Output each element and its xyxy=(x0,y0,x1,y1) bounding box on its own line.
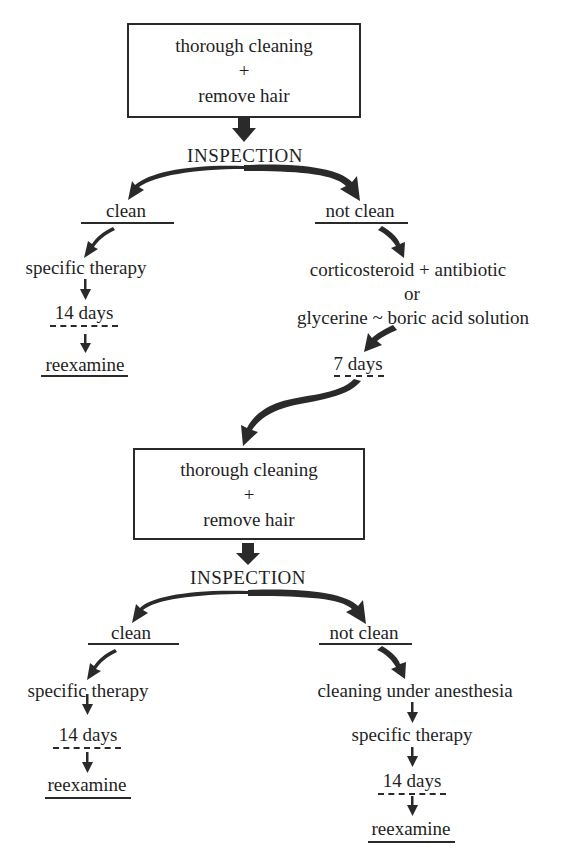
arrow-glycerine-to-7days xyxy=(364,325,397,352)
wait-14-days-1-dashed xyxy=(50,325,118,327)
arrow-inspection1-to-not-clean xyxy=(244,165,360,201)
treatment-corticosteroid-antibiotic: corticosteroid + antibiotic xyxy=(310,259,506,281)
treatment-glycerine-boric-acid: glycerine ~ boric acid solution xyxy=(297,307,529,329)
wait-7-days: 7 days xyxy=(333,353,382,375)
arrow-clean2-to-therapy xyxy=(87,649,117,680)
reexamine-1: reexamine xyxy=(45,354,124,376)
specific-therapy-1: specific therapy xyxy=(26,257,147,279)
reexamine-2a: reexamine xyxy=(47,774,126,796)
arrow-clean1-to-therapy xyxy=(84,227,115,258)
cleaning-under-anesthesia: cleaning under anesthesia xyxy=(317,680,512,702)
box2-line1: thorough cleaning xyxy=(135,457,363,482)
reexamine-2a-underline xyxy=(45,797,131,799)
not-clean-underline-1 xyxy=(315,222,408,224)
step-box-cleaning-1: thorough cleaning + remove hair xyxy=(127,23,361,118)
wait-14-days-2a-dashed xyxy=(53,747,121,749)
arrow-therapy1-to-14days xyxy=(84,279,87,291)
not-clean-label-2: not clean xyxy=(329,622,398,644)
arrow-box2-to-inspection xyxy=(236,543,260,565)
clean-underline-2 xyxy=(88,643,179,645)
not-clean-label-1: not clean xyxy=(325,200,394,222)
box1-plus: + xyxy=(129,58,359,83)
flowchart: thorough cleaning + remove hair INSPECTI… xyxy=(0,0,563,855)
inspection-label-1: INSPECTION xyxy=(187,145,303,167)
reexamine-2b: reexamine xyxy=(371,818,450,840)
clean-label-1: clean xyxy=(106,200,146,222)
wait-7-days-dashed xyxy=(334,375,384,377)
specific-therapy-2a: specific therapy xyxy=(28,680,149,702)
arrow-14days2a-to-reexamine xyxy=(86,752,89,764)
arrow-inspection2-to-clean xyxy=(132,591,248,623)
arrow-anesthesia-to-therapy xyxy=(411,702,414,714)
arrow-not-clean1-to-treatment xyxy=(378,226,405,258)
reexamine-1-underline xyxy=(41,375,128,377)
wait-14-days-2a: 14 days xyxy=(59,724,118,746)
box2-line3: remove hair xyxy=(135,507,363,532)
arrow-not-clean2-to-anesthesia xyxy=(377,646,406,679)
arrow-14days1-to-reexamine xyxy=(84,334,87,345)
wait-14-days-1: 14 days xyxy=(55,302,114,324)
treatment-or: or xyxy=(404,283,420,305)
arrow-therapy2b-to-14days xyxy=(411,747,414,758)
arrow-box1-to-inspection xyxy=(232,118,256,142)
inspection-label-2: INSPECTION xyxy=(190,567,306,589)
specific-therapy-2b: specific therapy xyxy=(352,724,473,746)
box1-line1: thorough cleaning xyxy=(129,33,359,58)
arrow-7days-to-box2 xyxy=(241,379,361,446)
arrow-14days2b-to-reexamine xyxy=(411,796,414,807)
clean-underline-1 xyxy=(81,222,174,224)
clean-label-2: clean xyxy=(111,622,151,644)
step-box-cleaning-2: thorough cleaning + remove hair xyxy=(133,448,365,540)
arrow-inspection2-to-not-clean xyxy=(248,590,366,624)
not-clean-underline-2 xyxy=(319,643,412,645)
reexamine-2b-underline xyxy=(368,841,455,843)
wait-14-days-2b: 14 days xyxy=(383,770,442,792)
wait-14-days-2b-dashed xyxy=(378,793,446,795)
arrow-inspection1-to-clean xyxy=(128,166,244,200)
box2-plus: + xyxy=(135,482,363,507)
box1-line3: remove hair xyxy=(129,83,359,108)
